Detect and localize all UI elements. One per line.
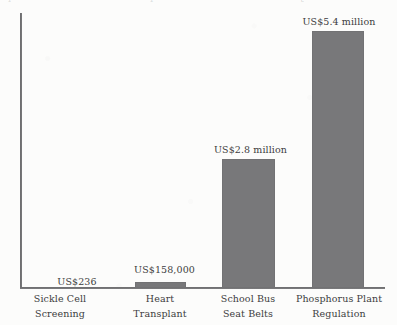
category-label: School Bus Seat Belts xyxy=(200,291,296,321)
plot-area: US$236US$158,000US$2.8 millionUS$5.4 mil… xyxy=(0,0,397,288)
bar[interactable] xyxy=(135,282,186,288)
scanned-page: l i t US$236US$158,000US$2.8 millionUS$5… xyxy=(0,0,397,325)
category-label: Phosphorus Plant Regulation xyxy=(288,291,390,321)
bar[interactable] xyxy=(222,159,275,288)
category-label: Sickle Cell Screening xyxy=(12,291,108,321)
bar-value-label: US$5.4 million xyxy=(293,16,385,27)
bar-value-label: US$2.8 million xyxy=(204,144,297,155)
category-label: Heart Transplant xyxy=(112,291,208,321)
bar-value-label: US$236 xyxy=(31,276,123,287)
bar[interactable] xyxy=(312,31,364,288)
bar-chart: US$236US$158,000US$2.8 millionUS$5.4 mil… xyxy=(0,0,397,325)
bar-value-label: US$158,000 xyxy=(119,264,210,275)
